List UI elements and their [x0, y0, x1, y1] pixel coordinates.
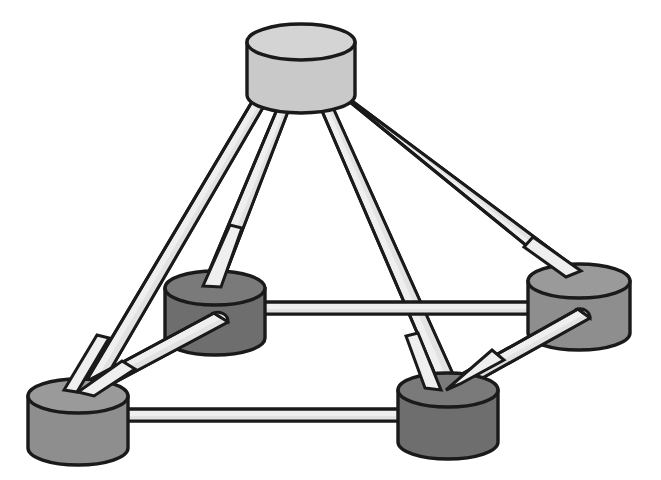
- rod-mid-left-mid-right: [214, 302, 580, 314]
- node-apex[interactable]: [247, 24, 355, 113]
- rod-front-left-front-right: [76, 409, 450, 421]
- figure-root: [0, 0, 661, 480]
- node-front-right[interactable]: [398, 373, 498, 459]
- strut-node-diagram: [0, 0, 661, 480]
